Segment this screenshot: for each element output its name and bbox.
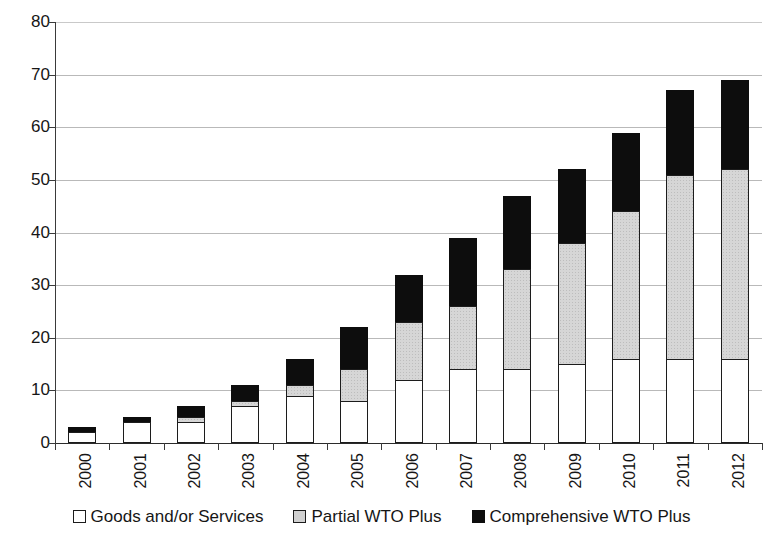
- bar-segment-2004-series-2[interactable]: [286, 359, 314, 385]
- y-axis-tick-mark-10: [48, 390, 55, 391]
- bar-group-2004[interactable]: [286, 359, 314, 443]
- bar-segment-2002-series-2[interactable]: [177, 406, 205, 417]
- x-axis-tick-label-2007: 2007: [459, 453, 475, 513]
- x-axis-tick-mark-5: [327, 443, 328, 450]
- x-axis-line: [55, 443, 762, 444]
- legend-label-1: Partial WTO Plus: [311, 508, 441, 525]
- x-axis-tick-mark-7: [436, 443, 437, 450]
- x-axis-tick-mark-10: [599, 443, 600, 450]
- x-axis-tick-label-2003: 2003: [241, 453, 257, 513]
- x-axis-tick-mark-0: [55, 443, 56, 450]
- x-axis-tick-label-2012: 2012: [731, 453, 747, 513]
- bar-segment-2012-series-1[interactable]: [721, 169, 749, 358]
- bar-group-2001[interactable]: [123, 417, 151, 443]
- y-axis-tick-label-20: 20: [6, 329, 50, 346]
- bar-group-2000[interactable]: [68, 427, 96, 443]
- bar-group-2008[interactable]: [503, 196, 531, 443]
- y-axis-tick-label-80: 80: [6, 13, 50, 30]
- bar-segment-2008-series-2[interactable]: [503, 196, 531, 270]
- x-axis-tick-mark-3: [218, 443, 219, 450]
- bar-segment-2005-series-0[interactable]: [340, 401, 368, 443]
- bar-segment-2012-series-0[interactable]: [721, 359, 749, 443]
- bar-segment-2007-series-1[interactable]: [449, 306, 477, 369]
- bar-segment-2011-series-1[interactable]: [666, 175, 694, 359]
- bar-group-2012[interactable]: [721, 80, 749, 443]
- y-axis-tick-label-70: 70: [6, 66, 50, 83]
- bar-segment-2008-series-0[interactable]: [503, 369, 531, 443]
- y-axis-tick-mark-60: [48, 127, 55, 128]
- bar-segment-2008-series-1[interactable]: [503, 269, 531, 369]
- y-axis-tick-mark-50: [48, 180, 55, 181]
- legend-item-0[interactable]: Goods and/or Services: [73, 508, 264, 525]
- bar-segment-2001-series-0[interactable]: [123, 422, 151, 443]
- bar-group-2011[interactable]: [666, 90, 694, 443]
- x-axis-tick-label-2006: 2006: [405, 453, 421, 513]
- bar-segment-2007-series-2[interactable]: [449, 238, 477, 306]
- y-axis-tick-mark-80: [48, 22, 55, 23]
- gridline-70: [55, 75, 762, 76]
- legend-item-1[interactable]: Partial WTO Plus: [293, 508, 441, 525]
- bar-segment-2002-series-0[interactable]: [177, 422, 205, 443]
- x-axis-tick-label-2002: 2002: [187, 453, 203, 513]
- x-axis-tick-mark-6: [381, 443, 382, 450]
- x-axis-tick-label-2009: 2009: [568, 453, 584, 513]
- bar-segment-2006-series-0[interactable]: [395, 380, 423, 443]
- bar-segment-2009-series-1[interactable]: [558, 243, 586, 364]
- bar-group-2005[interactable]: [340, 327, 368, 443]
- plot-area: [55, 22, 762, 443]
- x-axis-tick-mark-8: [490, 443, 491, 450]
- legend-item-2[interactable]: Comprehensive WTO Plus: [472, 508, 691, 525]
- x-axis-tick-label-2011: 2011: [676, 453, 692, 513]
- x-axis-tick-mark-11: [653, 443, 654, 450]
- y-axis-tick-mark-30: [48, 285, 55, 286]
- x-axis-tick-mark-2: [164, 443, 165, 450]
- x-axis-tick-label-2008: 2008: [513, 453, 529, 513]
- y-axis-tick-mark-40: [48, 233, 55, 234]
- bar-segment-2009-series-2[interactable]: [558, 169, 586, 243]
- y-axis-ticks: 01020304050607080: [0, 0, 50, 534]
- bar-segment-2009-series-0[interactable]: [558, 364, 586, 443]
- bar-segment-2010-series-0[interactable]: [612, 359, 640, 443]
- y-axis-tick-mark-70: [48, 75, 55, 76]
- bar-segment-2000-series-0[interactable]: [68, 432, 96, 443]
- bar-group-2007[interactable]: [449, 238, 477, 443]
- bar-segment-2007-series-0[interactable]: [449, 369, 477, 443]
- chart-legend: Goods and/or ServicesPartial WTO PlusCom…: [0, 508, 763, 525]
- y-axis-tick-label-0: 0: [6, 434, 50, 451]
- bar-segment-2003-series-2[interactable]: [231, 385, 259, 401]
- bar-segment-2005-series-2[interactable]: [340, 327, 368, 369]
- legend-label-0: Goods and/or Services: [91, 508, 264, 525]
- bar-group-2003[interactable]: [231, 385, 259, 443]
- bar-segment-2003-series-0[interactable]: [231, 406, 259, 443]
- bar-segment-2011-series-0[interactable]: [666, 359, 694, 443]
- gridline-60: [55, 127, 762, 128]
- bar-segment-2006-series-1[interactable]: [395, 322, 423, 380]
- bar-segment-2004-series-0[interactable]: [286, 396, 314, 443]
- bar-group-2010[interactable]: [612, 133, 640, 443]
- x-axis-tick-mark-4: [273, 443, 274, 450]
- x-axis-tick-mark-9: [544, 443, 545, 450]
- x-axis-tick-label-2010: 2010: [622, 453, 638, 513]
- x-axis-tick-label-2000: 2000: [78, 453, 94, 513]
- x-axis-tick-label-2005: 2005: [350, 453, 366, 513]
- y-axis-spine: [55, 22, 56, 444]
- y-axis-tick-label-30: 30: [6, 276, 50, 293]
- gridline-50: [55, 180, 762, 181]
- bar-segment-2010-series-2[interactable]: [612, 133, 640, 212]
- legend-swatch-icon-white-square: [73, 510, 86, 523]
- bar-segment-2005-series-1[interactable]: [340, 369, 368, 401]
- x-axis-tick-label-2004: 2004: [296, 453, 312, 513]
- y-axis-tick-label-10: 10: [6, 381, 50, 398]
- bar-segment-2011-series-2[interactable]: [666, 90, 694, 174]
- legend-label-2: Comprehensive WTO Plus: [490, 508, 691, 525]
- y-axis-tick-label-50: 50: [6, 171, 50, 188]
- bar-segment-2006-series-2[interactable]: [395, 275, 423, 322]
- bar-segment-2012-series-2[interactable]: [721, 80, 749, 169]
- bar-group-2006[interactable]: [395, 275, 423, 443]
- bar-group-2009[interactable]: [558, 169, 586, 443]
- x-axis-tick-mark-1: [109, 443, 110, 450]
- bar-segment-2004-series-1[interactable]: [286, 385, 314, 396]
- y-axis-tick-mark-0: [48, 443, 55, 444]
- bar-group-2002[interactable]: [177, 406, 205, 443]
- bar-segment-2010-series-1[interactable]: [612, 211, 640, 358]
